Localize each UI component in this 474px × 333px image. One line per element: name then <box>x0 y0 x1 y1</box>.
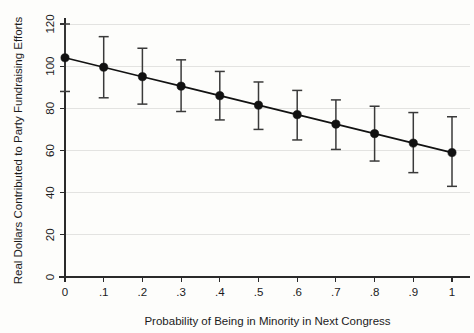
x-tick-label-5: .5 <box>254 286 264 298</box>
y-tick-label-80: 80 <box>44 102 56 115</box>
data-point-4 <box>216 92 224 100</box>
x-tick-label-7: .7 <box>331 286 341 298</box>
data-point-9 <box>409 139 417 147</box>
data-point-1 <box>100 63 108 71</box>
x-tick-label-1: .1 <box>99 286 109 298</box>
data-point-3 <box>177 82 185 90</box>
y-tick-label-120: 120 <box>44 14 56 33</box>
chart-figure: 0204060801001200.1.2.3.4.5.6.7.8.91Proba… <box>0 0 474 333</box>
y-tick-label-0: 0 <box>44 274 56 280</box>
x-tick-label-0: 0 <box>62 286 68 298</box>
x-axis-title: Probability of Being in Minority in Next… <box>144 315 390 327</box>
y-tick-label-100: 100 <box>44 57 56 76</box>
x-tick-label-4: .4 <box>215 286 225 298</box>
data-point-5 <box>254 101 262 109</box>
y-axis-title: Real Dollars Contributed to Party Fundra… <box>12 16 24 284</box>
data-point-0 <box>61 54 69 62</box>
x-tick-label-8: .8 <box>370 286 380 298</box>
y-tick-label-20: 20 <box>44 228 56 241</box>
data-point-7 <box>332 120 340 128</box>
y-tick-label-40: 40 <box>44 186 56 199</box>
data-point-2 <box>138 73 146 81</box>
x-tick-label-6: .6 <box>292 286 302 298</box>
x-tick-label-10: 1 <box>449 286 455 298</box>
chart-canvas: 0204060801001200.1.2.3.4.5.6.7.8.91Proba… <box>0 0 474 333</box>
x-tick-label-3: .3 <box>176 286 186 298</box>
y-tick-label-60: 60 <box>44 144 56 157</box>
data-point-8 <box>371 130 379 138</box>
x-tick-label-2: .2 <box>138 286 148 298</box>
x-tick-label-9: .9 <box>409 286 419 298</box>
data-point-6 <box>293 111 301 119</box>
data-point-10 <box>448 149 456 157</box>
